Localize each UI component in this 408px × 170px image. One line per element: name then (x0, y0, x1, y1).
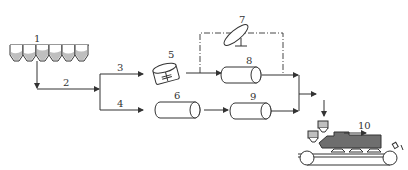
drum-5-icon (152, 61, 180, 85)
label-6: 6 (174, 91, 180, 101)
cylinder-9-icon (230, 103, 271, 119)
label-3: 3 (117, 63, 123, 73)
process-flow-diagram (0, 0, 408, 170)
label-2: 2 (63, 78, 69, 88)
feed-bins-icon (10, 45, 89, 61)
label-8: 8 (246, 56, 252, 66)
label-5: 5 (168, 50, 174, 60)
cylinder-6-icon (155, 102, 200, 118)
label-9: 9 (250, 92, 256, 102)
cylinder-8-icon (221, 67, 261, 83)
pelletizer-disc-7-icon (221, 22, 250, 49)
label-10: 10 (358, 121, 371, 131)
sinter-conveyor-10-icon (298, 121, 403, 165)
label-7: 7 (239, 15, 245, 25)
label-1: 1 (34, 34, 40, 44)
label-4: 4 (117, 99, 123, 109)
